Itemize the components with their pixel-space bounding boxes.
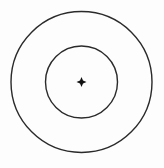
diagram-canvas <box>0 0 164 168</box>
center-point-icon <box>77 77 87 87</box>
concentric-circles-diagram <box>0 0 164 168</box>
